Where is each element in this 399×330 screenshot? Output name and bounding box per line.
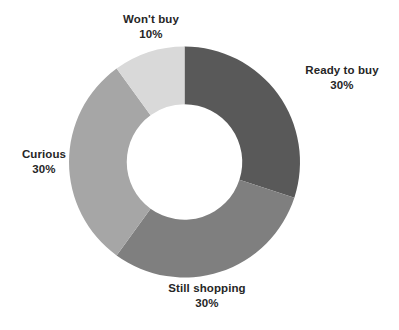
donut-chart: Won't buy 10% Ready to buy 30% Curious 3… bbox=[0, 0, 399, 330]
slice-label-curious-name: Curious bbox=[2, 147, 86, 162]
slice-label-wont-buy-value: 10% bbox=[86, 27, 216, 42]
slice-label-ready-to-buy-value: 30% bbox=[289, 78, 395, 93]
slice-ready-to-buy[interactable] bbox=[185, 47, 300, 198]
slice-label-wont-buy-name: Won't buy bbox=[86, 12, 216, 27]
slice-still-shopping[interactable] bbox=[117, 180, 295, 278]
slice-label-ready-to-buy-name: Ready to buy bbox=[289, 63, 395, 78]
slice-label-curious-value: 30% bbox=[2, 162, 86, 177]
slice-label-still-shopping: Still shopping 30% bbox=[127, 281, 287, 310]
slice-label-wont-buy: Won't buy 10% bbox=[86, 12, 216, 41]
donut-slices bbox=[69, 47, 300, 278]
slice-label-still-shopping-value: 30% bbox=[127, 296, 287, 311]
slice-label-ready-to-buy: Ready to buy 30% bbox=[289, 63, 395, 92]
slice-label-still-shopping-name: Still shopping bbox=[127, 281, 287, 296]
slice-label-curious: Curious 30% bbox=[2, 147, 86, 176]
